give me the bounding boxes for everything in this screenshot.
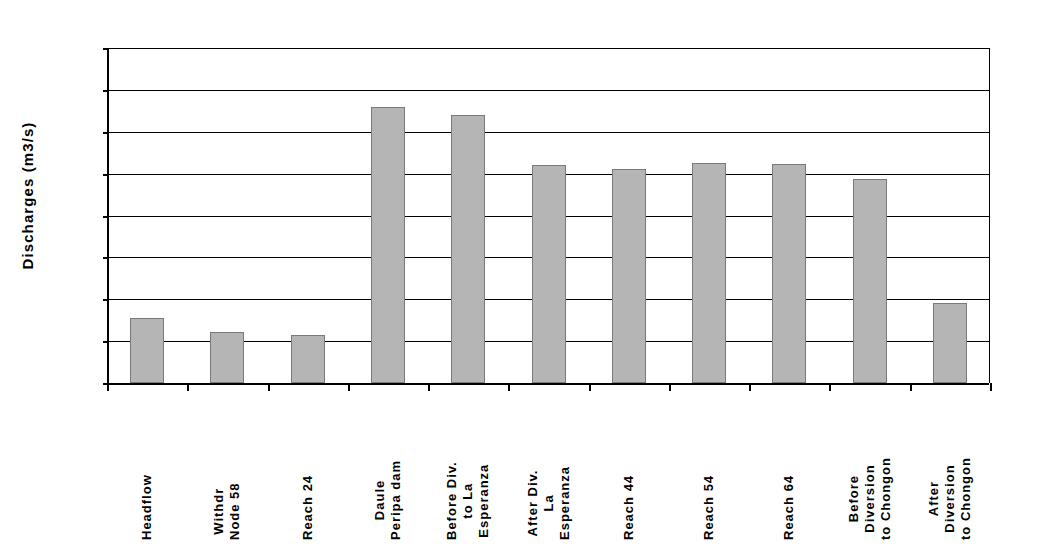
- x-axis-label-line: to Chongon: [958, 457, 974, 540]
- x-tick-mark: [990, 383, 992, 391]
- x-axis-label-line: Esperanza: [557, 466, 573, 540]
- bar: [532, 165, 566, 383]
- x-axis-label-line: La: [541, 466, 557, 540]
- bar: [210, 332, 244, 383]
- x-axis-label-line: Reach 44: [621, 475, 637, 540]
- bars-layer: [107, 48, 990, 383]
- x-tick-mark: [428, 383, 430, 391]
- bar-chart: Discharges (m3/s) 1801701601501401301201…: [0, 0, 1037, 544]
- x-tick-mark: [107, 383, 109, 391]
- x-tick-mark: [268, 383, 270, 391]
- x-tick-mark: [187, 383, 189, 391]
- x-axis-label-line: Before Div.: [444, 461, 460, 540]
- x-axis-label-line: to Chongon: [878, 457, 894, 540]
- x-tick-mark: [829, 383, 831, 391]
- bar: [291, 335, 325, 383]
- x-tick-mark: [749, 383, 751, 391]
- bar: [451, 115, 485, 383]
- x-axis-label-line: Before: [846, 457, 862, 540]
- x-axis-label-line: to La: [460, 461, 476, 540]
- bar: [772, 164, 806, 383]
- x-axis-label-line: Peripa dam: [388, 460, 404, 540]
- x-axis-label-line: Withdr: [211, 482, 227, 540]
- bar: [933, 303, 967, 383]
- x-tick-mark: [910, 383, 912, 391]
- x-axis-label-line: Headflow: [139, 474, 155, 540]
- x-axis-ticks: [107, 383, 990, 391]
- x-axis-label-line: After: [926, 457, 942, 540]
- x-tick-mark: [348, 383, 350, 391]
- x-axis-label-line: Diversion: [942, 457, 958, 540]
- x-axis-label-line: Daule: [372, 460, 388, 540]
- x-axis-labels: HeadflowWithdrNode 58Reach 24DaulePeripa…: [107, 394, 990, 544]
- x-axis-label-line: After Div.: [525, 466, 541, 540]
- y-axis-title-text: Discharges (m3/s): [20, 121, 37, 269]
- x-axis-label-line: Node 58: [227, 482, 243, 540]
- x-axis-label-line: Esperanza: [476, 461, 492, 540]
- bar: [853, 179, 887, 383]
- x-tick-mark: [589, 383, 591, 391]
- x-axis-label-line: Diversion: [862, 457, 878, 540]
- bar: [692, 163, 726, 383]
- x-axis-label-line: Reach 54: [701, 475, 717, 540]
- x-axis-label-line: Reach 64: [781, 475, 797, 540]
- x-axis-label: AfterDiversionto Chongon: [950, 394, 1037, 544]
- bar: [612, 169, 646, 383]
- bar: [130, 318, 164, 383]
- y-axis-title: Discharges (m3/s): [8, 0, 48, 390]
- x-axis-label-line: Reach 24: [300, 475, 316, 540]
- bar: [371, 107, 405, 383]
- x-tick-mark: [669, 383, 671, 391]
- x-tick-mark: [508, 383, 510, 391]
